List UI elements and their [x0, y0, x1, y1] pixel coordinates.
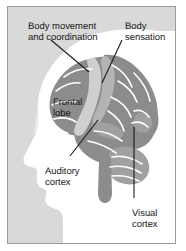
brainstem: [98, 153, 112, 203]
label-auditory-cortex: Auditory cortex: [45, 167, 79, 188]
label-frontal-lobe: Frontal lobe: [53, 98, 82, 119]
diagram-panel: Body movement and coordination Body sens…: [7, 6, 176, 244]
brain-diagram-figure: Body movement and coordination Body sens…: [0, 0, 186, 251]
label-body-sensation: Body sensation: [125, 22, 165, 43]
label-body-movement-and-coordination: Body movement and coordination: [28, 22, 97, 43]
label-visual-cortex: Visual cortex: [132, 209, 158, 230]
